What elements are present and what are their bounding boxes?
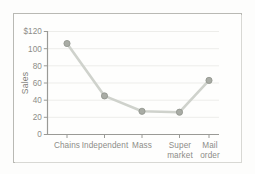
- data-point-chains: [64, 40, 70, 46]
- line-chart: $120 100 80 60 40 20 0 Sales Chains Inde…: [0, 0, 255, 174]
- y-tick-label-20: 20: [33, 113, 43, 122]
- data-point-mail-order: [206, 77, 212, 83]
- data-point-mass: [139, 108, 145, 114]
- figure-root: $120 100 80 60 40 20 0 Sales Chains Inde…: [0, 0, 255, 174]
- x-tick-label-independent: Independent: [82, 141, 129, 150]
- x-tick-label-super-market-line1: Super: [169, 141, 192, 150]
- x-tick-label-mass: Mass: [132, 141, 152, 150]
- series-line-sales: [67, 44, 209, 113]
- y-tick-label-40: 40: [33, 96, 43, 105]
- y-tick-label-120: $120: [23, 27, 42, 36]
- data-point-super-market: [176, 109, 182, 115]
- data-point-independent: [101, 93, 107, 99]
- x-tick-label-chains: Chains: [54, 141, 80, 150]
- series-markers: [64, 40, 212, 115]
- y-tick-label-100: 100: [28, 45, 42, 54]
- gridlines: [48, 32, 220, 118]
- y-tick-label-60: 60: [33, 79, 43, 88]
- y-axis-title: Sales: [20, 72, 30, 95]
- x-tick-label-super-market-line2: market: [167, 151, 193, 160]
- y-tick-label-80: 80: [33, 62, 43, 71]
- x-tick-label-mail-order-line1: Mail: [202, 141, 217, 150]
- x-tick-label-mail-order-line2: order: [200, 151, 220, 160]
- y-tick-label-0: 0: [37, 130, 42, 139]
